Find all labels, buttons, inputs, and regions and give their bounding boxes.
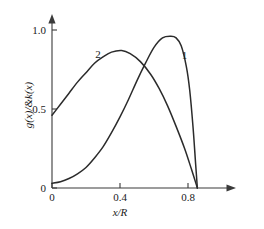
x-axis-arrow-icon — [227, 184, 237, 191]
x-axis — [52, 184, 236, 191]
y-axis-title: g(x)/&k(x) — [22, 81, 35, 128]
x-tick-label-0.4: 0.4 — [113, 191, 127, 203]
x-tick-label-0.8: 0.8 — [181, 191, 195, 203]
y-tick-label-1.0: 1.0 — [32, 24, 46, 36]
x-axis-title: x/R — [112, 206, 128, 218]
curve-series-1 — [52, 36, 197, 188]
chart-canvas: 1.0 0.5 0 0 0.4 0.8 x/R g(x)/&k(x) 1 2 — [0, 0, 264, 229]
y-tick-label-0.5: 0.5 — [32, 103, 46, 115]
y-axis-arrow-icon — [48, 14, 55, 24]
curve-label-1: 1 — [182, 49, 188, 61]
curve-label-2: 2 — [95, 48, 101, 60]
x-axis-ticks — [52, 183, 188, 188]
chart-figure: 1.0 0.5 0 0 0.4 0.8 x/R g(x)/&k(x) 1 2 — [0, 0, 264, 229]
curve-series-2 — [52, 50, 197, 188]
x-tick-label-0: 0 — [49, 191, 55, 203]
y-axis — [48, 14, 55, 188]
y-tick-label-0: 0 — [41, 182, 47, 194]
